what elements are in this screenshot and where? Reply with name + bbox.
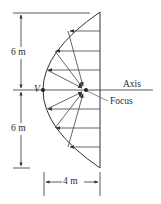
reflected-rays <box>47 31 83 147</box>
focus-label: Focus <box>110 97 133 107</box>
incoming-rays <box>48 31 100 147</box>
focus-leader-line <box>87 91 108 101</box>
vertex-point <box>41 88 45 92</box>
vertex-label: V <box>34 85 40 95</box>
axis-label: Axis <box>123 80 141 90</box>
parabolic-reflector-diagram <box>0 0 161 204</box>
top-dimension-label: 6 m <box>11 47 26 59</box>
focus-point <box>84 88 88 92</box>
bottom-dimension-label: 6 m <box>11 123 26 135</box>
width-dimension-label: 4 m <box>63 177 78 187</box>
